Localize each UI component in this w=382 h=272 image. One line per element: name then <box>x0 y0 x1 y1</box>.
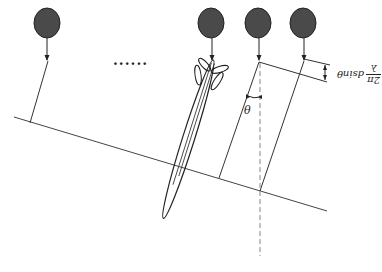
phased-array-diagram <box>0 0 382 272</box>
arrowhead-icon <box>257 55 262 61</box>
angle-theta-label: θ <box>244 104 251 117</box>
formula-numerator: 2π <box>366 75 381 87</box>
antenna-element-3 <box>245 8 271 61</box>
formula-fraction: 2π λ <box>366 64 381 87</box>
arrowhead-icon <box>323 75 327 80</box>
wavefront-line-2 <box>304 59 330 65</box>
arrowhead-icon <box>302 55 307 61</box>
ray-element-4 <box>260 61 304 191</box>
formula-expression: dsinθ <box>337 70 364 81</box>
antenna-element-2 <box>198 8 224 61</box>
arrowhead-icon <box>45 55 50 61</box>
phase-difference-formula: 2π λ dsinθ <box>337 60 381 90</box>
side-lobe <box>194 65 203 86</box>
beam-pattern <box>147 54 231 223</box>
side-lobe <box>209 71 225 91</box>
ray-element-1 <box>30 61 48 123</box>
antenna-element-4 <box>290 8 316 61</box>
formula-denominator: λ <box>370 64 376 75</box>
arrowhead-icon <box>323 65 327 70</box>
main-lobe <box>158 58 219 220</box>
ellipsis-more-elements: ...... <box>113 52 148 68</box>
antenna-element-1 <box>34 8 60 61</box>
ray-element-3 <box>219 62 259 178</box>
wavefront-line <box>259 62 327 82</box>
